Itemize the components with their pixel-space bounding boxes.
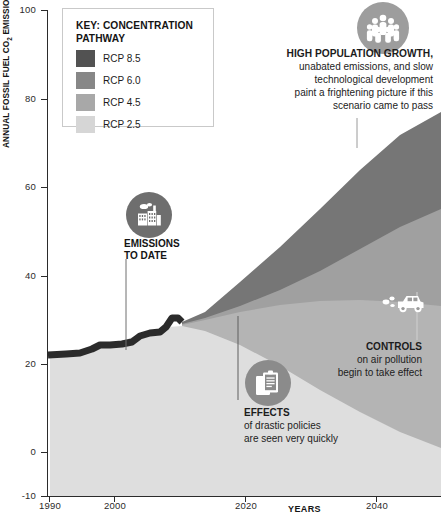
annotation-population-head: HIGH POPULATION GROWTH, [228,47,433,60]
y-tick-label-80: 80 [10,93,36,104]
annotation-effects: EFFECTS of drastic policies are seen ver… [244,406,394,445]
x-axis-line [47,496,441,497]
y-axis-label-prefix: ANNUAL FOSSIL FUEL CO [2,41,11,148]
annotation-controls: CONTROLS on air pollution begin to take … [310,340,422,379]
annotation-controls-line1: on air pollution [310,353,422,366]
y-tick-60 [41,187,47,188]
y-axis-line [47,10,48,497]
y-tick-40 [41,276,47,277]
annotation-emissions-line1: EMISSIONS [124,238,220,250]
annotation-emissions-line2: TO DATE [124,250,220,262]
annotation-emissions-to-date: EMISSIONS TO DATE [124,238,220,263]
legend-swatch-rcp85 [76,50,95,67]
legend-swatch-rcp25 [76,116,95,133]
y-tick-label-100: 100 [10,4,36,15]
x-tick-label-1990: 1990 [30,500,70,511]
y-tick-20 [41,364,47,365]
y-tick-0 [41,452,47,453]
annotation-population-line4: scenario came to pass [228,99,433,112]
legend-item-rcp85: RCP 8.5 [76,50,213,67]
x-tick-label-2000: 2000 [95,500,135,511]
x-axis-label: YEARS [288,504,321,514]
legend-item-rcp45: RCP 4.5 [76,94,213,111]
legend-item-rcp25: RCP 2.5 [76,116,213,133]
x-tick-label-2040: 2040 [357,500,397,511]
annotation-high-population-growth: HIGH POPULATION GROWTH, unabated emissio… [228,47,433,112]
chart-figure: 100 80 60 40 20 0 -10 1990 2000 2020 204… [0,0,441,526]
y-axis-label: ANNUAL FOSSIL FUEL CO2 EMISSIONS (GIGATO… [2,0,13,148]
y-axis-label-suffix: EMISSIONS (GIGATONS) [2,0,11,37]
x-tick-label-2020: 2020 [226,500,266,511]
factory-icon [126,192,172,238]
y-tick-80 [41,99,47,100]
legend-swatch-rcp60 [76,72,95,89]
legend-label-rcp25: RCP 2.5 [103,119,141,130]
legend-swatch-rcp45 [76,94,95,111]
clipboard-icon [245,360,291,406]
legend-label-rcp45: RCP 4.5 [103,97,141,108]
annotation-controls-head: CONTROLS [310,340,422,353]
annotation-population-line2: technological development [228,73,433,86]
y-axis-label-subscript: 2 [6,37,13,41]
y-tick-label-60: 60 [10,181,36,192]
legend-label-rcp85: RCP 8.5 [103,53,141,64]
legend-label-rcp60: RCP 6.0 [103,75,141,86]
y-tick-100 [41,10,47,11]
y-tick-label-40: 40 [10,270,36,281]
annotation-effects-line2: are seen very quickly [244,432,394,445]
y-tick-neg10 [41,496,47,497]
annotation-effects-line1: of drastic policies [244,419,394,432]
car-exhaust-icon [381,283,427,323]
annotation-controls-line2: begin to take effect [310,366,422,379]
y-tick-label-20: 20 [10,358,36,369]
legend-title: KEY: CONCENTRATION PATHWAY [76,20,206,45]
annotation-population-line3: paint a frightening picture if this [228,86,433,99]
chart-legend: KEY: CONCENTRATION PATHWAY RCP 8.5 RCP 6… [62,8,214,127]
y-tick-label-0: 0 [10,446,36,457]
annotation-effects-head: EFFECTS [244,406,394,419]
legend-item-rcp60: RCP 6.0 [76,72,213,89]
annotation-population-line1: unabated emissions, and slow [228,60,433,73]
